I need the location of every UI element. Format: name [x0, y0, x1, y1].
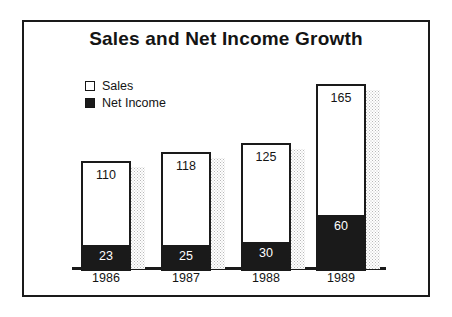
bar-segment-sales-1989: 165: [318, 86, 364, 215]
bar-value-net-income-1989: 60: [316, 220, 366, 233]
x-axis-label-1986: 1986: [81, 271, 131, 285]
bar-value-net-income-1988: 30: [241, 247, 291, 260]
bar-value-sales-1987: 118: [163, 160, 209, 173]
bar-segment-net-income-1989: 60: [316, 215, 366, 271]
bar-segment-net-income-1988: 30: [241, 242, 291, 271]
bar-1987[interactable]: 118 25: [161, 152, 211, 269]
bar-value-sales-1986: 110: [83, 169, 129, 182]
bar-value-sales-1988: 125: [243, 151, 289, 164]
x-axis-label-1988: 1988: [241, 271, 291, 285]
bar-group-1987: 118 25 1987: [161, 22, 225, 299]
chart-frame: Sales and Net Income Growth Sales Net In…: [22, 20, 430, 297]
bar-value-sales-1989: 165: [318, 92, 364, 105]
bar-value-net-income-1986: 23: [81, 250, 131, 263]
bar-1989[interactable]: 165 60: [316, 84, 366, 269]
bar-segment-sales-1986: 110: [83, 163, 129, 245]
bar-group-1989: 165 60 1989: [316, 22, 380, 299]
bar-segment-sales-1988: 125: [243, 145, 289, 242]
bar-group-1986: 110 23 1986: [81, 22, 145, 299]
bar-group-1988: 125 30 1988: [241, 22, 305, 299]
bar-segment-net-income-1986: 23: [81, 245, 131, 271]
bar-segment-sales-1987: 118: [163, 154, 209, 245]
x-axis-label-1989: 1989: [316, 271, 366, 285]
bar-1988[interactable]: 125 30: [241, 143, 291, 269]
bar-1986[interactable]: 110 23: [81, 161, 131, 269]
plot-area: 110 23 1986 118 25 1987: [24, 22, 428, 295]
bar-value-net-income-1987: 25: [161, 250, 211, 263]
bar-segment-net-income-1987: 25: [161, 245, 211, 271]
x-axis-label-1987: 1987: [161, 271, 211, 285]
